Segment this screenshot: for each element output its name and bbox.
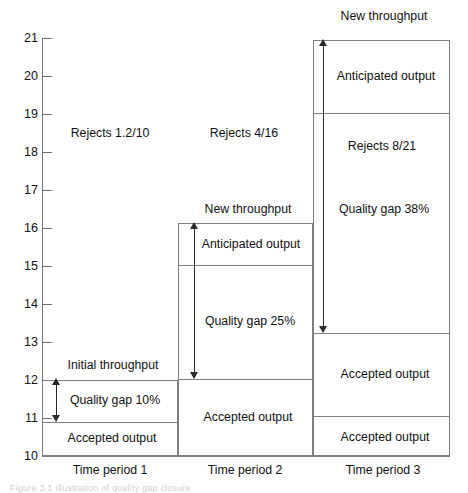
label-p1-rejects: Rejects 1.2/10 [71,127,150,140]
y-tick-14 [42,304,52,305]
y-tick-label-15: 15 [12,260,38,272]
label-p2-anticipated-output: Anticipated output [202,238,300,251]
label-p3-anticipated-output: Anticipated output [337,70,435,83]
label-p3-new-throughput: New throughput [341,10,428,23]
y-tick-label-14: 14 [12,298,38,310]
y-tick-17 [42,190,52,191]
label-p2-rejects: Rejects 4/16 [210,127,278,140]
label-p2-new-throughput: New throughput [205,203,292,216]
arrowhead-p1-up-icon [52,378,60,385]
label-p3-accepted-output-upper: Accepted output [341,368,430,381]
y-tick-13 [42,342,52,343]
label-p2-accepted-output: Accepted output [204,411,293,424]
arrow-p3-new-throughput [323,42,324,332]
x-label-period-2: Time period 2 [208,463,283,477]
arrow-p2-new-throughput [194,225,195,378]
y-tick-15 [42,266,52,267]
arrowhead-p2-down-icon [190,372,198,379]
x-axis-baseline [42,456,450,457]
y-tick-label-12: 12 [12,374,38,386]
arrowhead-p3-down-icon [319,326,327,333]
label-p1-quality-gap: Quality gap 10% [70,394,160,407]
label-p2-quality-gap: Quality gap 25% [205,315,295,328]
y-tick-16 [42,228,52,229]
y-tick-19 [42,114,52,115]
figure-caption: Figure 3.1 Illustration of quality gap c… [10,483,310,493]
label-p3-rejects: Rejects 8/21 [348,140,416,153]
y-tick-20 [42,76,52,77]
label-p3-accepted-output-lower: Accepted output [341,431,430,444]
y-tick-label-18: 18 [12,146,38,158]
y-tick-label-16: 16 [12,222,38,234]
arrowhead-p2-up-icon [190,222,198,229]
y-tick-label-10: 10 [12,450,38,462]
x-label-period-1: Time period 1 [73,463,148,477]
divider-p3-quality-gap [313,333,450,334]
y-tick-label-11: 11 [12,412,38,424]
y-tick-label-20: 20 [12,70,38,82]
divider-p2-quality-gap [178,379,313,380]
divider-p3-anticipated [313,113,450,114]
y-tick-label-21: 21 [12,32,38,44]
y-tick-label-17: 17 [12,184,38,196]
divider-p2-anticipated [178,265,313,266]
divider-p1-accepted [42,422,178,423]
divider-p3-accepted-upper [313,416,450,417]
arrowhead-p3-up-icon [319,39,327,46]
bar-period-3 [313,40,450,456]
y-tick-18 [42,152,52,153]
arrowhead-p1-down-icon [52,415,60,422]
label-p1-initial-throughput: Initial throughput [68,359,159,372]
label-p3-quality-gap: Quality gap 38% [339,203,429,216]
y-tick-label-13: 13 [12,336,38,348]
y-tick-label-19: 19 [12,108,38,120]
label-p1-accepted-output: Accepted output [68,432,157,445]
y-tick-21 [42,38,52,39]
x-label-period-3: Time period 3 [346,463,421,477]
